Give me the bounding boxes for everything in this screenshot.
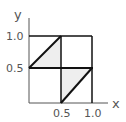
unit-square-diagram: y x 1.0 0.5 0.5 1.0 <box>0 0 126 122</box>
y-tick-0-5: 0.5 <box>6 62 24 75</box>
x-tick-1: 1.0 <box>84 107 102 120</box>
y-axis-label: y <box>14 7 22 22</box>
y-tick-1: 1.0 <box>6 30 24 43</box>
x-axis-label: x <box>112 96 120 111</box>
x-tick-0-5: 0.5 <box>53 107 71 120</box>
